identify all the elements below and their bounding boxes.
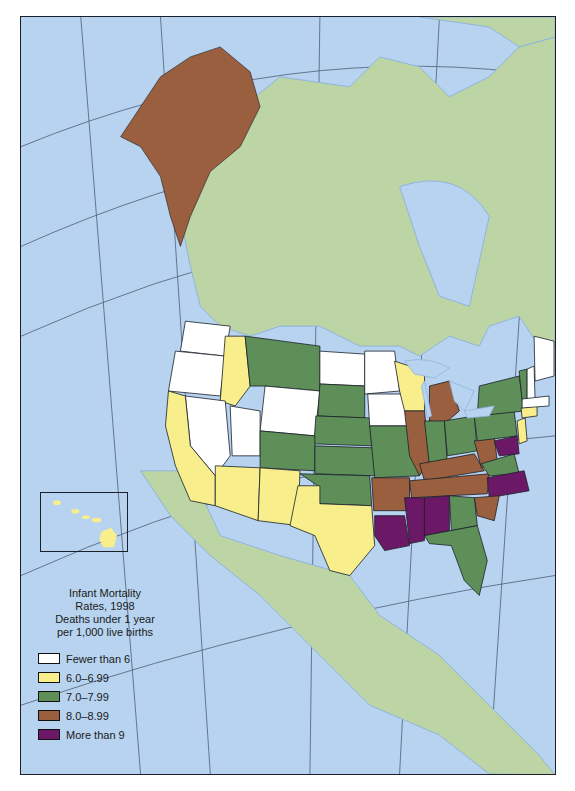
state-louisiana — [375, 516, 410, 551]
state-tennessee — [410, 474, 490, 498]
state-florida — [424, 526, 487, 596]
legend-title-line: Rates, 1998 — [25, 600, 185, 613]
state-alabama — [424, 496, 449, 536]
legend-swatch — [38, 691, 60, 702]
state-oregon — [168, 351, 225, 396]
legend-item-gt9: More than 9 — [38, 725, 185, 744]
legend-swatch — [38, 653, 60, 664]
state-maryland — [494, 436, 519, 456]
state-utah — [230, 406, 260, 456]
legend-item-lt6: Fewer than 6 — [38, 649, 185, 668]
state-arkansas — [372, 478, 410, 511]
hawaii-map — [41, 493, 127, 551]
state-montana — [245, 336, 320, 391]
legend-title-line: Deaths under 1 year — [25, 613, 185, 626]
legend-items: Fewer than 6 6.0–6.99 7.0–7.99 8.0–8.99 … — [38, 649, 185, 744]
legend-swatch — [38, 729, 60, 740]
legend-item-8to9: 8.0–8.99 — [38, 706, 185, 725]
legend-title-line: Infant Mortality — [25, 587, 185, 600]
state-idaho — [220, 336, 250, 406]
legend-label: More than 9 — [66, 729, 125, 741]
state-wyoming — [260, 386, 320, 436]
state-kansas — [315, 446, 375, 476]
state-colorado — [260, 431, 315, 471]
legend-swatch — [38, 672, 60, 683]
state-new-hampshire — [527, 366, 535, 399]
legend-item-6to7: 6.0–6.99 — [38, 668, 185, 687]
map-legend: Infant Mortality Rates, 1998 Deaths unde… — [25, 587, 185, 744]
hawaii-inset — [40, 492, 128, 552]
legend-title-line: per 1,000 live births — [25, 626, 185, 639]
state-washington — [180, 321, 230, 356]
state-ohio — [444, 416, 477, 456]
legend-label: 7.0–7.99 — [66, 691, 109, 703]
state-arizona — [215, 466, 260, 521]
state-south-carolina — [474, 496, 499, 521]
legend-item-7to8: 7.0–7.99 — [38, 687, 185, 706]
state-georgia — [449, 496, 477, 531]
state-north-dakota — [320, 351, 365, 386]
legend-label: 6.0–6.99 — [66, 672, 109, 684]
legend-title: Infant Mortality Rates, 1998 Deaths unde… — [25, 587, 185, 639]
state-new-jersey — [517, 418, 527, 444]
legend-swatch — [38, 710, 60, 721]
state-maine — [534, 336, 554, 381]
state-nebraska — [314, 416, 372, 446]
state-minnesota — [365, 351, 400, 394]
legend-label: 8.0–8.99 — [66, 710, 109, 722]
state-south-dakota — [318, 384, 365, 418]
map-frame: Infant Mortality Rates, 1998 Deaths unde… — [20, 16, 556, 775]
legend-label: Fewer than 6 — [66, 653, 130, 665]
